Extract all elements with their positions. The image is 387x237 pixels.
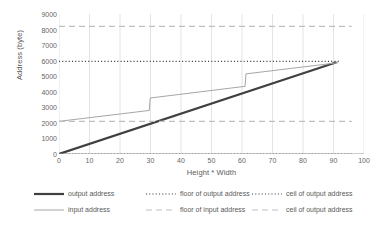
- legend-label: floor of input address: [180, 205, 245, 215]
- x-tick-label: 100: [349, 156, 379, 165]
- legend-label: ceil of output address: [286, 205, 353, 215]
- y-tick-label: 8000: [20, 26, 57, 33]
- legend-key-solid-thin-gray: [34, 205, 64, 215]
- x-tick-label: 60: [227, 156, 257, 165]
- y-tick-label: 3000: [20, 104, 57, 111]
- x-tick-label: 20: [105, 156, 135, 165]
- x-tick-label: 80: [288, 156, 318, 165]
- x-tick-label: 70: [258, 156, 288, 165]
- x-tick-label: 40: [166, 156, 196, 165]
- legend-item[interactable]: floor of output address: [146, 186, 250, 202]
- x-tick-label: 0: [44, 156, 74, 165]
- data-series-layer: [59, 26, 352, 154]
- legend-label: floor of output address: [180, 189, 250, 199]
- y-tick-label: 7000: [20, 42, 57, 49]
- legend-item[interactable]: ceil of output address: [252, 186, 353, 202]
- legend-item[interactable]: ceil of output address: [252, 202, 353, 218]
- x-tick-label: 10: [75, 156, 105, 165]
- x-axis-tick-labels: 0102030405060708090100: [59, 156, 364, 168]
- legend-key-solid-thick-dark: [34, 189, 64, 199]
- legend-item[interactable]: output address: [34, 186, 114, 202]
- series-line-3: [59, 63, 338, 122]
- y-tick-label: 5000: [20, 73, 57, 80]
- gridlines: [59, 14, 364, 154]
- y-tick-label: 9000: [20, 11, 57, 18]
- y-tick-label: 1000: [20, 135, 57, 142]
- legend-label: output address: [68, 189, 114, 199]
- legend-key-dotted-dark: [252, 189, 282, 199]
- legend-key-dashed-light: [252, 205, 282, 215]
- legend-row: input addressfloor of input addressceil …: [34, 202, 374, 218]
- chart-legend: output addressfloor of output addresscei…: [34, 186, 374, 224]
- plot-svg: [59, 14, 364, 154]
- x-axis-title: Height * Width: [59, 168, 364, 177]
- plot-area: [59, 14, 364, 154]
- chart-container: Address (byte) 0100020003000400050006000…: [0, 0, 387, 237]
- legend-row: output addressfloor of output addresscei…: [34, 186, 374, 202]
- y-tick-label: 2000: [20, 119, 57, 126]
- legend-item[interactable]: floor of input address: [146, 202, 245, 218]
- x-tick-label: 30: [136, 156, 166, 165]
- y-tick-label: 6000: [20, 57, 57, 64]
- series-line-0: [59, 62, 337, 154]
- x-tick-label: 90: [319, 156, 349, 165]
- x-tick-label: 50: [197, 156, 227, 165]
- legend-label: input address: [68, 205, 110, 215]
- y-tick-label: 4000: [20, 88, 57, 95]
- legend-key-dashed-light: [146, 205, 176, 215]
- y-axis-tick-labels: 0100020003000400050006000700080009000: [20, 14, 57, 154]
- legend-key-dotted-dark: [146, 189, 176, 199]
- legend-label: ceil of output address: [286, 189, 353, 199]
- legend-item[interactable]: input address: [34, 202, 110, 218]
